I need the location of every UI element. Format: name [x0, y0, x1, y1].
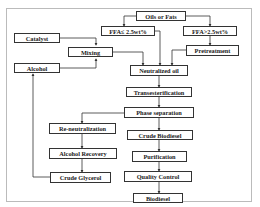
node-ffa-low: FFA≤ 2.5wt% [101, 26, 155, 36]
node-phase-separation: Phase separation [124, 107, 194, 118]
node-crude-glycerol: Crude Glycerol [50, 172, 111, 183]
node-re-neutralization: Re-neutralization [49, 123, 116, 134]
node-neutralized-oil: Neutralized oil [130, 65, 188, 76]
node-crude-biodiesel: Crude Biodiesel [127, 130, 193, 140]
node-alcohol-recovery: Alcohol Recovery [49, 148, 117, 159]
node-alcohol: Alcohol [14, 63, 60, 73]
node-quality-control: Quality Control [124, 171, 192, 182]
node-oils-or-fats: Oils or Fats [136, 11, 186, 21]
node-mixing: Mixing [68, 47, 113, 57]
node-transesterification: Transesterification [126, 87, 192, 97]
node-catalyst: Catalyst [14, 33, 60, 43]
node-biodiesel: Biodiesel [133, 193, 183, 203]
node-ffa-high: FFA>2.5wt% [183, 26, 237, 36]
node-pretreatment: Pretreatment [186, 45, 239, 56]
node-purification: Purification [132, 151, 187, 162]
